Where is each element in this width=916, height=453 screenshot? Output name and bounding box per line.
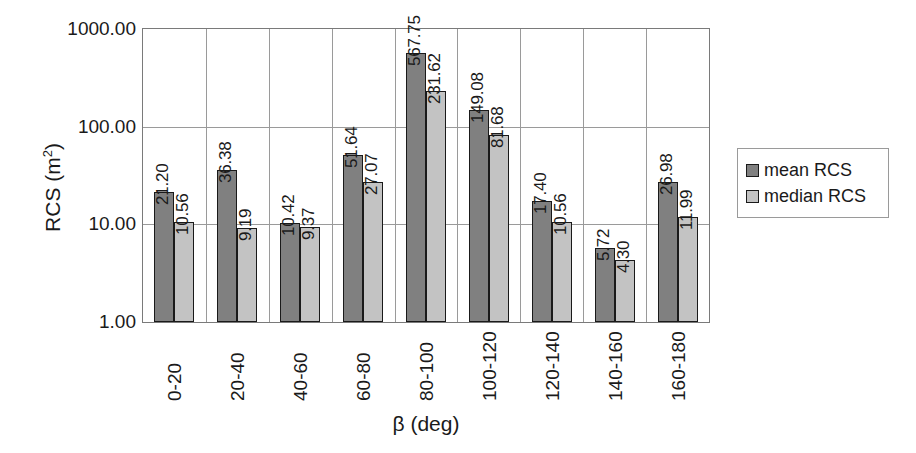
bar-group: 36.389.19 [206, 29, 269, 322]
bar-group: 10.429.37 [269, 29, 332, 322]
x-axis-tick-label: 120-140 [543, 331, 562, 401]
bar-group: 51.6427.07 [332, 29, 395, 322]
bar-value-label: 26.98 [658, 154, 675, 196]
x-axis-tick-label: 160-180 [669, 331, 688, 401]
bar-median [363, 182, 383, 322]
bar-value-label: 9.37 [300, 208, 317, 240]
bar-value-label: 17.40 [532, 172, 549, 214]
legend-item-label: mean RCS [764, 161, 852, 179]
bar-value-label: 11.99 [678, 189, 695, 229]
chart-legend: mean RCSmedian RCS [737, 148, 889, 218]
y-axis-tick-label: 10.00 [16, 214, 136, 233]
bar-median [300, 227, 320, 322]
x-axis-title: β (deg) [142, 412, 710, 436]
bar-mean [280, 223, 300, 322]
bar-value-label: 27.07 [363, 154, 380, 196]
x-axis-tick-label: 40-60 [291, 352, 310, 401]
bar-value-label: 51.64 [343, 126, 360, 168]
bar-value-label: 4.30 [615, 241, 632, 273]
bar-group: 567.75231.62 [395, 29, 458, 322]
x-axis-tick-label: 140-160 [606, 331, 625, 401]
plot-area: 21.2010.5636.389.1910.429.3751.6427.0756… [142, 28, 710, 323]
bar-mean [406, 53, 426, 322]
bar-mean [658, 182, 678, 322]
bar-value-label: 231.62 [426, 53, 443, 104]
bar-value-label: 567.75 [406, 15, 423, 66]
bar-value-label: 21.20 [154, 164, 171, 206]
legend-item-label: median RCS [764, 187, 866, 205]
bar-median [552, 222, 572, 322]
bar-mean [154, 192, 174, 322]
bar-value-label: 36.38 [217, 141, 234, 183]
bar-group: 21.2010.56 [143, 29, 206, 322]
bar-value-label: 10.56 [174, 193, 191, 235]
y-axis-tick-label: 1000.00 [16, 19, 136, 38]
x-axis-tick-label: 80-100 [417, 342, 436, 401]
bar-value-label: 10.56 [552, 193, 569, 235]
bar-mean [469, 110, 489, 322]
bar-median [426, 91, 446, 322]
bar-group: 26.9811.99 [646, 29, 709, 322]
legend-swatch-icon [746, 190, 759, 203]
y-axis-tick-label: 100.00 [16, 117, 136, 136]
bar-median [678, 217, 698, 322]
x-axis-tick-label: 60-80 [354, 352, 373, 401]
bar-median [174, 222, 194, 322]
x-axis-tick-label: 100-120 [480, 331, 499, 401]
x-axis-tick-labels: 0-2020-4040-6060-8080-100100-120120-1401… [142, 323, 710, 423]
bar-group: 17.4010.56 [520, 29, 583, 322]
bar-mean [217, 170, 237, 322]
y-axis-tick-label: 1.00 [16, 312, 136, 331]
legend-item[interactable]: mean RCS [746, 157, 882, 183]
bar-value-label: 9.19 [237, 209, 254, 241]
bar-value-label: 81.68 [489, 107, 506, 149]
bar-mean [532, 201, 552, 322]
bar-mean [343, 155, 363, 322]
x-axis-tick-label: 20-40 [228, 352, 247, 401]
bar-value-label: 5.72 [595, 229, 612, 261]
legend-swatch-icon [746, 164, 759, 177]
legend-item[interactable]: median RCS [746, 183, 882, 209]
bar-group: 149.0881.68 [457, 29, 520, 322]
rcs-bar-chart: RCS (m2) 1.0010.00100.001000.00 21.2010.… [0, 0, 916, 453]
bar-value-label: 10.42 [280, 194, 297, 236]
x-axis-tick-label: 0-20 [165, 363, 184, 401]
bar-median [237, 228, 257, 322]
bar-group: 5.724.30 [583, 29, 646, 322]
bar-value-label: 149.08 [469, 72, 486, 123]
y-axis-tick-labels: 1.0010.00100.001000.00 [12, 0, 136, 453]
bar-median [489, 135, 509, 322]
